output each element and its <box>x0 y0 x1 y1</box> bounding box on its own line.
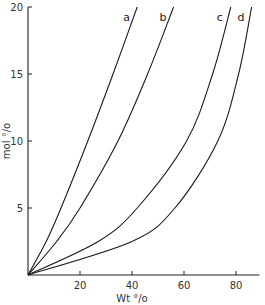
y-tick-label: 5 <box>17 203 23 214</box>
curve-label-b: b <box>160 11 167 24</box>
x-tick-label: 20 <box>74 280 87 291</box>
x-axis-label: Wt °/o <box>116 293 147 304</box>
y-tick-label: 15 <box>10 69 23 80</box>
ticks: 204060805101520 <box>10 2 242 291</box>
curve-label-a: a <box>123 11 130 24</box>
curve-a <box>28 7 137 275</box>
curve-label-c: c <box>217 11 223 24</box>
x-tick-label: 80 <box>230 280 243 291</box>
curve-label-d: d <box>238 11 245 24</box>
y-tick-label: 10 <box>10 136 23 147</box>
x-tick-label: 60 <box>178 280 191 291</box>
y-axis-label: mol °/o <box>1 123 12 159</box>
curve-c <box>28 7 231 275</box>
y-tick-label: 20 <box>10 2 23 13</box>
axes <box>28 7 259 275</box>
chart: 204060805101520 abcd Wt °/o mol °/o <box>0 0 265 305</box>
x-tick-label: 40 <box>126 280 139 291</box>
curves <box>28 7 252 275</box>
labels: abcd <box>123 11 244 24</box>
